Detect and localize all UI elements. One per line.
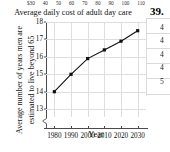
x-tick-mark — [138, 126, 139, 129]
above-tick-5: 80 — [95, 0, 100, 6]
axis-break-icon — [42, 117, 51, 128]
right-margin-digits: 4 4 4 4 5 — [160, 21, 170, 88]
x-tick-mark — [88, 126, 89, 129]
data-point-marker — [86, 57, 89, 60]
above-tick-0: $30 — [27, 0, 35, 6]
above-tick-6: 90 — [108, 0, 113, 6]
data-line — [54, 31, 137, 92]
y-axis-label: Average number of years men are estimate… — [0, 16, 26, 144]
data-point-marker — [69, 73, 72, 76]
x-tick-mark — [121, 126, 122, 129]
y-tick-label: 13 — [36, 105, 43, 113]
data-point-marker — [119, 40, 122, 43]
right-margin-digit: 4 — [160, 21, 170, 34]
data-point-marker — [136, 29, 139, 32]
above-tick-4: 70 — [82, 0, 87, 6]
line-chart: 131415161718 198019902000201020202030 — [46, 22, 146, 117]
above-tick-3: 60 — [69, 0, 74, 6]
x-tick-mark — [54, 126, 55, 129]
y-tick-label: 16 — [36, 53, 43, 61]
y-tick-label: 18 — [36, 18, 43, 26]
right-margin-digit: 4 — [160, 34, 170, 47]
textbook-page-fragment: $30 40 50 60 70 80 90 100 110 Average da… — [0, 0, 170, 152]
above-tick-1: 40 — [43, 0, 48, 6]
data-point-marker — [103, 48, 106, 51]
right-margin-digit: 5 — [160, 75, 170, 88]
right-margin-digit: 4 — [160, 48, 170, 61]
y-tick-label: 17 — [36, 35, 43, 43]
x-axis-line — [44, 128, 148, 129]
x-tick-mark — [104, 126, 105, 129]
right-margin-digit: 4 — [160, 61, 170, 74]
x-tick-mark — [71, 126, 72, 129]
above-tick-7: 100 — [122, 0, 130, 6]
x-axis-label: Year — [46, 130, 146, 139]
y-tick-label: 15 — [36, 70, 43, 78]
above-tick-8: 110 — [137, 0, 145, 6]
data-series — [46, 22, 146, 117]
data-point-marker — [53, 90, 56, 93]
above-tick-2: 50 — [56, 0, 61, 6]
y-tick-label: 14 — [36, 88, 43, 96]
